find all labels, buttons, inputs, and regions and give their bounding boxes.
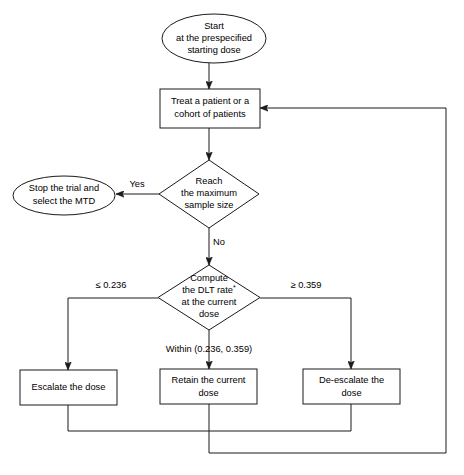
dlt-line2: the DLT rate — [182, 285, 233, 295]
start-line1: Start — [204, 21, 224, 31]
node-deescalate-dose: De-escalate the dose — [303, 369, 400, 404]
flowchart-canvas: Start at the prespecified starting dose … — [0, 0, 464, 475]
stop-trial-line2: select the MTD — [33, 196, 96, 206]
dlt-line3: at the current — [182, 297, 237, 307]
node-retain-dose: Retain the current dose — [160, 369, 257, 404]
treat-line2: cohort of patients — [174, 109, 246, 119]
node-stop-trial: Stop the trial and select the MTD — [13, 176, 115, 215]
edge-label-no: No — [213, 237, 225, 247]
escalate-line1: Escalate the dose — [32, 382, 106, 392]
deescalate-line2: dose — [341, 388, 361, 398]
node-start: Start at the prespecified starting dose — [162, 14, 266, 63]
retain-line1: Retain the current — [172, 375, 246, 385]
sample-size-line2: the maximum — [181, 188, 237, 198]
dlt-line2-group: the DLT rate* — [182, 284, 236, 296]
edge-low-dlt-to-escalate — [68, 298, 158, 370]
dlt-line1: Compute — [190, 273, 228, 283]
node-treat-patient: Treat a patient or a cohort of patients — [160, 89, 260, 128]
node-decision-dlt-rate: Compute the DLT rate* at the current dos… — [158, 265, 260, 330]
edge-label-within-range: Within (0.236, 0.359) — [166, 344, 252, 354]
dlt-footnote-marker: * — [233, 284, 236, 291]
retain-line2: dose — [198, 388, 218, 398]
edge-label-lower-threshold: ≤ 0.236 — [96, 280, 127, 290]
start-line3: starting dose — [187, 45, 240, 55]
deescalate-box-shape — [303, 369, 400, 404]
flowchart-svg: Start at the prespecified starting dose … — [0, 0, 464, 475]
retain-box-shape — [160, 369, 257, 404]
stop-trial-line1: Stop the trial and — [29, 183, 99, 193]
node-escalate-dose: Escalate the dose — [20, 370, 117, 405]
node-decision-sample-size: Reach the maximum sample size — [159, 160, 259, 228]
deescalate-line1: De-escalate the — [319, 375, 384, 385]
treat-line1: Treat a patient or a — [171, 96, 250, 106]
sample-size-line1: Reach — [196, 176, 223, 186]
edge-label-yes: Yes — [129, 179, 145, 189]
edge-label-upper-threshold: ≥ 0.359 — [291, 280, 322, 290]
dlt-line4: dose — [199, 309, 219, 319]
start-line2: at the prespecified — [176, 33, 252, 43]
sample-size-line3: sample size — [184, 200, 233, 210]
edge-high-dlt-to-deescalate — [260, 298, 351, 369]
